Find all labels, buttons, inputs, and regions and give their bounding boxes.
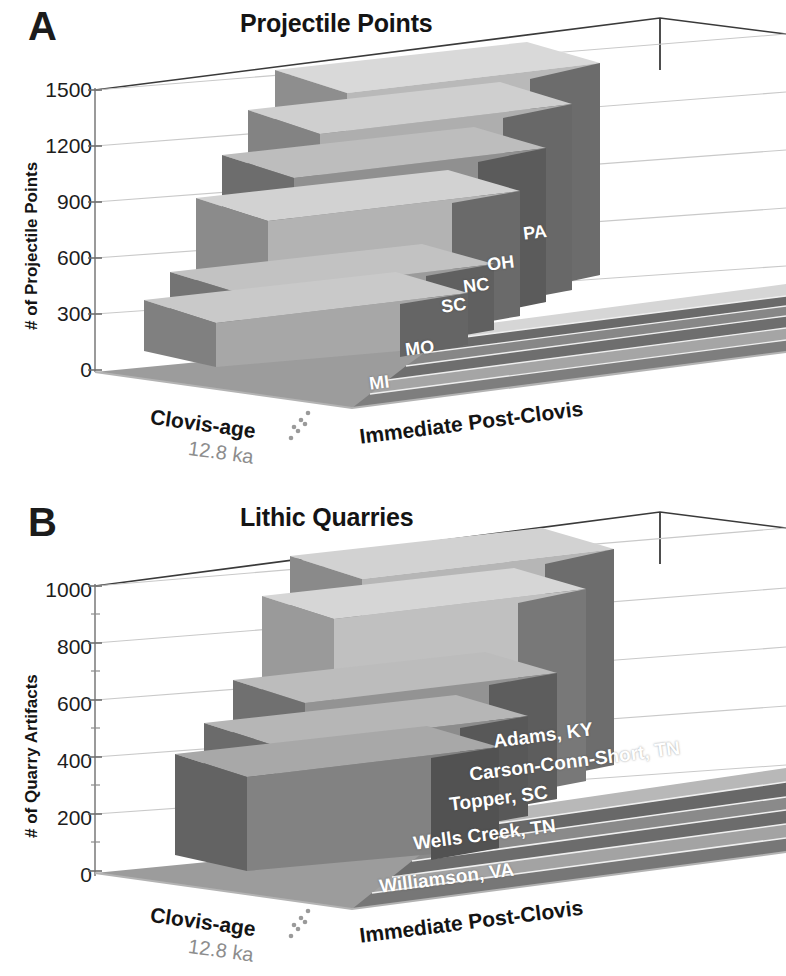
panel-b-plot (0, 488, 786, 976)
panel-b-axis-break-dots (289, 909, 311, 939)
panel-a-series-label-MO: MO (404, 336, 435, 360)
figure-root: A Projectile Points # of Projectile Poin… (0, 0, 786, 976)
panel-b: B Lithic Quarries # of Quarry Artifacts … (0, 488, 786, 976)
panel-a-series-label-OH: OH (486, 252, 515, 276)
panel-a: A Projectile Points # of Projectile Poin… (0, 0, 786, 488)
panel-a-series-label-NC: NC (462, 274, 490, 298)
panel-a-series-label-MI: MI (368, 371, 390, 394)
panel-a-series-label-PA: PA (522, 221, 548, 245)
panel-a-axis-break-dots (289, 411, 311, 441)
panel-a-plot (0, 0, 786, 488)
panel-a-series-label-SC: SC (440, 294, 467, 318)
